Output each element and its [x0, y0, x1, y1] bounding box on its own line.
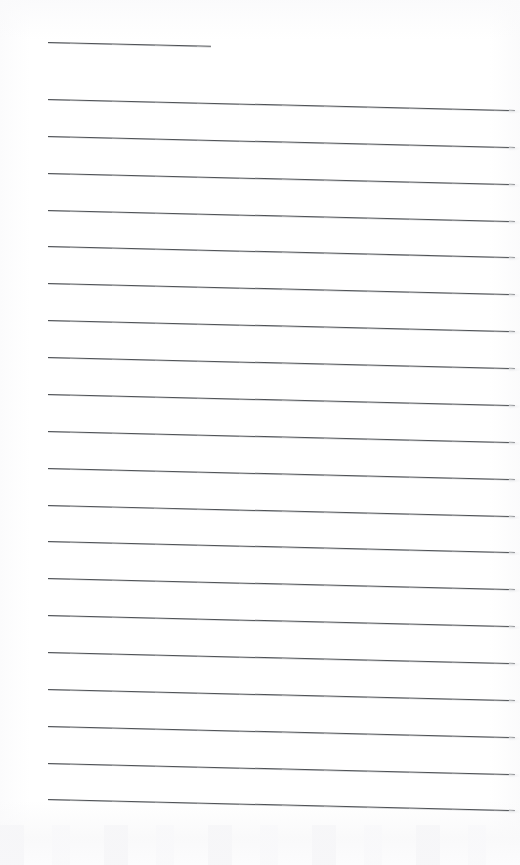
ruled-lines-layer — [0, 0, 520, 865]
ruled-line — [48, 320, 515, 332]
ruled-line — [48, 173, 515, 185]
ruled-line — [48, 763, 515, 775]
ruled-line — [48, 541, 515, 553]
ruled-line — [48, 431, 515, 443]
ruled-line — [48, 652, 515, 664]
ruled-line — [48, 283, 515, 295]
ruled-line — [48, 689, 515, 701]
ruled-line — [48, 246, 515, 258]
ruled-line — [48, 468, 515, 480]
ruled-line — [48, 615, 515, 627]
ruled-line — [48, 726, 515, 738]
ruled-line — [48, 210, 515, 222]
ruled-line — [48, 505, 515, 517]
ruled-line — [48, 357, 515, 369]
ruled-line — [48, 394, 515, 406]
ruled-line — [48, 799, 515, 811]
ruled-line — [48, 578, 515, 590]
scanned-page — [0, 0, 520, 865]
ruled-line — [48, 99, 515, 111]
ruled-line — [48, 136, 515, 148]
ruled-line — [48, 42, 211, 47]
